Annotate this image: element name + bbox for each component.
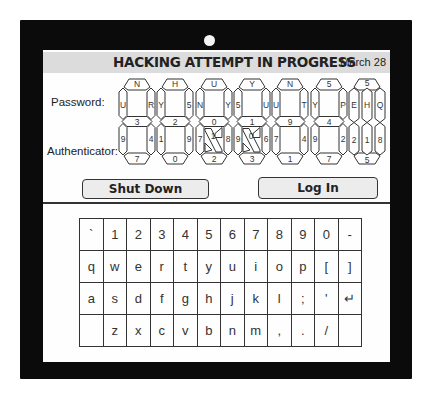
shutdown-button[interactable]: Shut Down [82,179,209,199]
segment-label: H [364,100,370,110]
key[interactable]: 3 [150,219,174,251]
segment-label: 7 [274,134,279,144]
segment-label: 7 [197,134,202,144]
segment-label: 6 [264,134,269,144]
key[interactable]: 2 [127,219,151,251]
segment-label: 5 [364,78,369,88]
segment-digit: UNY07821 [195,78,233,165]
key[interactable]: g [174,283,198,315]
keyboard-row: qwertyuiop[] [80,251,362,283]
blank-key[interactable] [338,315,362,347]
key[interactable]: i [244,251,268,283]
key[interactable]: ' [315,283,339,315]
segment-label: 3 [135,117,140,127]
segment-label: 2 [351,135,356,145]
key[interactable]: m [244,315,268,347]
segment-label: 4 [149,134,154,144]
key[interactable]: e [127,251,151,283]
key[interactable]: j [221,283,245,315]
segment-label: 1 [288,154,293,164]
key[interactable]: ; [291,283,315,315]
password-label: Password: [51,96,105,108]
key[interactable]: l [268,283,292,315]
segment-label: 2 [211,154,216,164]
key[interactable]: 6 [221,219,245,251]
key[interactable]: b [197,315,221,347]
segment-label: 0 [249,131,254,141]
key[interactable]: o [268,251,292,283]
segment-label: 9 [187,134,192,144]
key[interactable]: 5 [197,219,221,251]
page-title: HACKING ATTEMPT IN PROGRESS [113,54,356,70]
key[interactable]: z [103,315,127,347]
key[interactable]: 8 [268,219,292,251]
key[interactable]: w [103,251,127,283]
segment-digit: HY52190 [156,78,194,165]
key[interactable]: t [174,251,198,283]
key[interactable]: ` [80,219,104,251]
segment-label: U [273,100,279,110]
segment-label: 4 [302,134,307,144]
key[interactable]: k [244,283,268,315]
segment-label: U [211,79,217,89]
segment-label: 9 [288,117,293,127]
segment-label: N [134,79,140,89]
key[interactable]: , [268,315,292,347]
key[interactable]: . [291,315,315,347]
segment-label: 3 [250,154,255,164]
segment-label: 2 [340,134,345,144]
segment-label: 8 [377,135,382,145]
keyboard-row: `1234567890- [80,219,362,251]
segment-label: Y [158,100,164,110]
divider [43,202,390,204]
keyboard-row: asdfghjkl;'↵ [80,283,362,315]
segment-label: Y [312,100,318,110]
key[interactable]: [ [315,251,339,283]
key[interactable]: 7 [244,219,268,251]
key[interactable]: y [197,251,221,283]
key[interactable]: n [221,315,245,347]
key[interactable]: 1 [103,219,127,251]
segment-label: U [120,100,126,110]
key[interactable]: / [315,315,339,347]
key[interactable]: - [338,219,362,251]
camera-icon [204,35,215,46]
key[interactable]: x [127,315,151,347]
key[interactable]: f [150,283,174,315]
segment-label: N [287,79,293,89]
enter-key[interactable]: ↵ [338,283,362,315]
key[interactable]: v [174,315,198,347]
key[interactable]: p [291,251,315,283]
key[interactable]: u [221,251,245,283]
segment-label: 2 [173,117,178,127]
key[interactable]: d [127,283,151,315]
segment-label: 9 [312,134,317,144]
segment-label: 8 [225,134,230,144]
key[interactable]: h [197,283,221,315]
segment-label: T [302,100,307,110]
key[interactable]: 0 [315,219,339,251]
segment-digit: E2H1Q855 [348,78,386,165]
key[interactable]: 9 [291,219,315,251]
segment-label: 1 [210,131,215,141]
key[interactable]: 4 [174,219,198,251]
key[interactable]: ] [338,251,362,283]
authenticator-label: Authenticator: [47,145,118,157]
login-button[interactable]: Log In [258,177,378,199]
segment-label: 7 [326,154,331,164]
key[interactable]: r [150,251,174,283]
segment-label: 5 [236,100,241,110]
key[interactable]: c [150,315,174,347]
segment-label: 5 [364,155,369,165]
key[interactable]: a [80,283,104,315]
date-label: March 28 [340,56,386,68]
blank-key[interactable] [80,315,104,347]
segment-label: E [351,100,357,110]
segment-label: 1 [159,134,164,144]
segment-label: 1 [364,135,369,145]
key[interactable]: q [80,251,104,283]
segment-label: Y [249,79,255,89]
segment-label: Q [376,100,383,110]
segment-label: 0 [173,154,178,164]
key[interactable]: s [103,283,127,315]
